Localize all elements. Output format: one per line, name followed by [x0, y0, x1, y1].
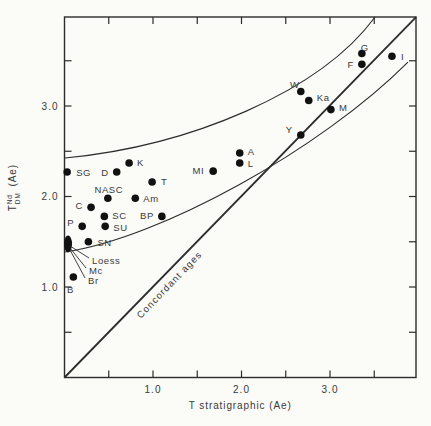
data-point-label: D — [101, 167, 108, 178]
data-point-label: I — [401, 51, 404, 62]
data-point-label: F — [347, 59, 353, 70]
data-point-label: B — [67, 284, 74, 295]
data-point-label: BP — [140, 210, 154, 221]
data-point-label: Am — [143, 193, 158, 204]
data-point-label: A — [248, 146, 255, 157]
data-point — [113, 168, 121, 176]
y-axis-title: TNdDM (Ae) — [6, 164, 21, 211]
data-point — [327, 106, 335, 114]
data-point-label: G — [361, 42, 369, 53]
data-point — [104, 195, 112, 203]
data-point — [101, 213, 109, 221]
data-point-label: Ka — [317, 92, 330, 103]
data-point — [305, 97, 313, 105]
scatter-plot-svg: Concordant ages1.02.03.01.02.03.0T strat… — [0, 0, 431, 426]
data-point — [85, 238, 93, 246]
x-axis-title: T stratigraphic (Ae) — [189, 400, 292, 411]
data-point-label: M — [339, 102, 348, 113]
data-point — [158, 213, 166, 221]
x-tick-label: 3.0 — [322, 384, 339, 395]
data-point — [63, 168, 71, 176]
y-tick-label: 3.0 — [42, 101, 59, 112]
data-point-label: Y — [286, 124, 293, 135]
data-point — [148, 178, 156, 186]
y-tick-label: 2.0 — [42, 191, 59, 202]
data-point-label: T — [161, 176, 167, 187]
concordant-label: Concordant ages — [134, 249, 204, 321]
data-point-label: MI — [192, 165, 204, 176]
data-point — [132, 195, 140, 203]
nd-model-age-figure: Concordant ages1.02.03.01.02.03.0T strat… — [0, 0, 431, 426]
data-point-label: SN — [97, 237, 111, 248]
x-tick-label: 2.0 — [233, 384, 250, 395]
data-point-label: L — [248, 158, 254, 169]
data-point — [125, 159, 133, 167]
concordant-line — [65, 17, 417, 377]
data-point-label: K — [137, 157, 144, 168]
data-point — [388, 52, 396, 60]
leader-label: Br — [88, 275, 99, 286]
data-point-label: C — [76, 200, 83, 211]
data-point-label: W — [290, 79, 300, 90]
data-point-label: SU — [113, 222, 127, 233]
band-curve-upper — [65, 17, 375, 158]
data-point — [101, 223, 109, 231]
data-point — [78, 223, 86, 231]
data-point — [236, 159, 244, 167]
data-point-label: NASC — [94, 184, 123, 195]
y-tick-label: 1.0 — [42, 282, 59, 293]
data-point-label: P — [67, 217, 74, 228]
data-point — [236, 149, 244, 157]
overlap-cluster — [64, 236, 72, 253]
data-point-label: SG — [76, 167, 91, 178]
x-tick-label: 1.0 — [145, 384, 162, 395]
data-point — [209, 167, 217, 175]
data-point — [297, 131, 305, 139]
data-point — [87, 204, 95, 212]
data-point — [358, 61, 366, 69]
data-point — [70, 273, 78, 281]
data-point-label: SC — [112, 210, 126, 221]
